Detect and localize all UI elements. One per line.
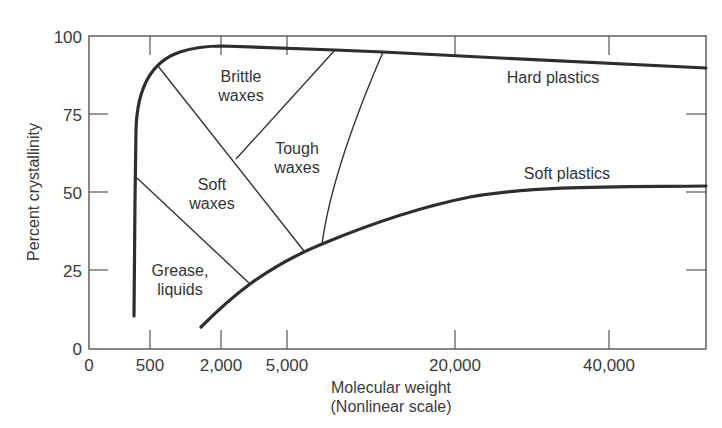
label-soft-plastics: Soft plastics xyxy=(524,165,610,182)
label-soft-waxes: waxes xyxy=(188,195,234,212)
x-tick-5000: 5,000 xyxy=(266,356,309,375)
y-axis-ticks-left xyxy=(89,114,108,270)
label-tough: Tough xyxy=(275,140,319,157)
y-tick-labels: 100 75 50 25 0 xyxy=(54,28,82,359)
label-brittle-waxes: waxes xyxy=(217,87,263,104)
label-liquids: liquids xyxy=(157,281,202,298)
lower-boundary-curve xyxy=(201,186,706,327)
region-labels: Brittle waxes Tough waxes Soft waxes Gre… xyxy=(152,68,611,298)
plot-frame xyxy=(89,36,706,349)
x-tick-0: 0 xyxy=(84,356,93,375)
label-tough-waxes: waxes xyxy=(273,159,319,176)
x-tick-labels: 0 500 2,000 5,000 20,000 40,000 xyxy=(84,356,635,375)
x-tick-2000: 2,000 xyxy=(200,356,243,375)
y-tick-75: 75 xyxy=(63,106,82,125)
tough-hard-divider xyxy=(322,52,383,244)
crystallinity-diagram: 100 75 50 25 0 0 500 2,000 5,000 20,000 … xyxy=(0,0,722,428)
y-axis-ticks-right xyxy=(686,114,706,270)
x-tick-500: 500 xyxy=(136,356,164,375)
x-axis-title: Molecular weight xyxy=(331,379,452,396)
region-dividers xyxy=(137,50,383,284)
y-tick-50: 50 xyxy=(63,184,82,203)
label-soft: Soft xyxy=(198,176,227,193)
y-tick-100: 100 xyxy=(54,28,82,47)
x-axis-ticks-bottom xyxy=(150,330,609,349)
y-tick-0: 0 xyxy=(73,340,82,359)
x-axis-subtitle: (Nonlinear scale) xyxy=(331,398,452,415)
y-tick-25: 25 xyxy=(63,262,82,281)
x-tick-40000: 40,000 xyxy=(583,356,635,375)
label-hard-plastics: Hard plastics xyxy=(507,69,599,86)
y-axis-title: Percent crystallinity xyxy=(25,123,42,261)
label-grease: Grease, xyxy=(152,262,209,279)
label-brittle: Brittle xyxy=(221,68,262,85)
x-tick-20000: 20,000 xyxy=(429,356,481,375)
